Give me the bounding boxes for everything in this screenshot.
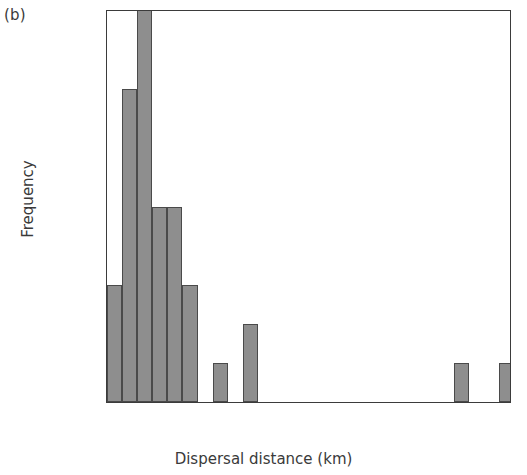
plot-area: 0246810 510152025 [106,10,511,403]
panel-label: (b) [4,6,26,24]
x-axis-tick [182,402,183,403]
y-axis-title: Frequency [19,109,37,289]
x-axis-tick [409,402,410,403]
x-axis-title: Dispersal distance (km) [0,450,527,468]
x-axis-tick [333,402,334,403]
x-axis: 510152025 [107,11,510,402]
y-axis-tick [106,402,107,403]
x-axis-tick [484,402,485,403]
figure-panel-b: (b) Frequency 0246810 510152025 Dispersa… [0,0,527,475]
x-axis-tick [258,402,259,403]
